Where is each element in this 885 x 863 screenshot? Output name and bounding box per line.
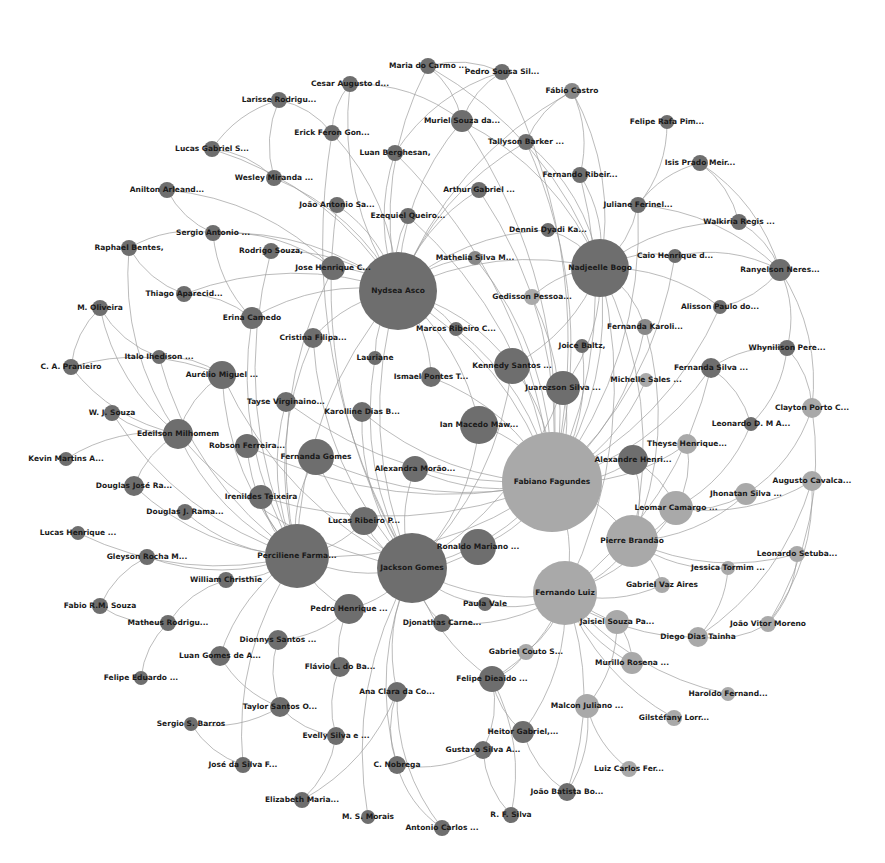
node-label: Felipe Eduardo ... (104, 673, 179, 682)
node-label: Antonio Carlos ... (405, 823, 478, 832)
node-label: Theyse Henrique... (647, 439, 727, 448)
node-label: Felipe Dieaido ... (456, 674, 527, 683)
edge (390, 692, 397, 765)
node-label: Taylor Santos O... (243, 702, 317, 711)
node-label: Ana Clara da Co... (359, 687, 435, 696)
node-label: Gabriel Couto S... (489, 647, 564, 656)
node-label: Fábio Castro (546, 86, 599, 95)
node-label: Heitor Gabriel,... (488, 727, 559, 736)
node-label: Kennedy Santos ... (472, 361, 552, 370)
node-label: Juarezson Silva ... (524, 383, 601, 392)
edge (638, 205, 780, 270)
node-label: Fernanda Gomes (280, 452, 352, 461)
edge (71, 308, 100, 367)
node-label: Evelly Silva e ... (302, 731, 369, 740)
node-label: Lauriane (357, 353, 394, 362)
node-label: Marcos Ribeiro C... (416, 324, 496, 333)
node-label: Gleyson Rocha M... (107, 552, 188, 561)
node-label: Felipe Rafa Pim... (630, 117, 704, 126)
node-label: Cesar Augusto d... (311, 79, 389, 88)
node-label: Augusto Cavalca... (773, 476, 852, 485)
node-label: Lucas Ribeiro P... (328, 516, 400, 525)
edge (100, 557, 147, 606)
node-label: Douglas J. Rama... (146, 507, 223, 516)
node-label: Raphael Bentes, (94, 243, 163, 252)
node-label: Malcon Juliano ... (551, 701, 624, 710)
node-label: Fernando Luiz (535, 588, 595, 597)
node-label: Michelle Sales ... (610, 375, 682, 384)
node-label: Leomar Camargo ... (634, 503, 717, 512)
node-label: Larisse Rodrigu... (242, 95, 317, 104)
node-label: José da Silva F... (208, 760, 278, 769)
node-label: Whynilison Pere... (748, 343, 825, 352)
node-label: Anilton Arleand... (130, 185, 205, 194)
edge (638, 122, 667, 205)
node-label: Diego Dias Tainha (660, 632, 735, 641)
node-label: Leonardo D. M A... (712, 419, 791, 428)
node-label: Caio Henrique d... (637, 251, 713, 260)
edge (567, 706, 588, 792)
node-label: C. A. Pranieiro (40, 362, 101, 371)
node-label: Mathelia Silva M... (436, 253, 515, 262)
node-label: João Antonio Sa... (298, 200, 374, 209)
edge (638, 163, 700, 205)
network-graph: Maria do Carmo ...Pedro Sousa Sil...Cesa… (0, 0, 885, 863)
node-label: R. F. Silva (490, 810, 531, 819)
node-label: Karolline Dias B... (324, 407, 400, 416)
node-label: Robson Ferreira... (209, 441, 285, 450)
edge (483, 750, 511, 815)
node-label: Douglas José Ra... (96, 481, 172, 490)
node-label: Elizabeth Maria... (265, 795, 339, 804)
edge (600, 268, 643, 541)
node-label: João Batista Bo... (530, 787, 604, 796)
node-label: Lucas Gabriel S... (175, 144, 249, 153)
edge (191, 724, 243, 765)
node-label: Dionnys Santos ... (240, 635, 317, 644)
node-label: Rodrigo Souza, (239, 246, 303, 255)
node-label: Leonardo Setuba... (757, 549, 838, 558)
node-label: Gustavo Silva A... (446, 745, 521, 754)
node-label: Joice Baltz, (558, 341, 606, 350)
node-label: Jackson Gomes (379, 563, 444, 572)
node-label: Perciliene Farma... (257, 551, 337, 560)
edge (523, 732, 567, 792)
edge (700, 163, 739, 222)
node-label: Erina Camedo (223, 313, 281, 322)
node-label: Ismael Pontes T... (394, 372, 469, 381)
node-label: Alexandre Henri... (595, 455, 672, 464)
node-label: Pedro Henrique ... (310, 604, 387, 613)
node-label: Fabiano Fagundes (514, 477, 591, 486)
edge (220, 656, 280, 707)
node-label: Edeilson Milhomem (137, 429, 219, 438)
node-label: Sergio Antonio ... (176, 228, 250, 237)
node-label: Arthur Gabriel ... (443, 185, 515, 194)
node-label: William Christhie (190, 575, 262, 584)
node-label: W. J. Souza (89, 408, 136, 417)
node-label: Flávio L. do Ba... (305, 662, 376, 671)
edge (711, 368, 751, 424)
node-label: Alisson Paulo do... (681, 302, 759, 311)
node-label: Paula Vale (463, 599, 507, 608)
edge (768, 408, 816, 624)
node-label: Nydsea Asco (371, 286, 425, 295)
edge (780, 270, 791, 348)
node-label: Walkiria Regis ... (703, 217, 775, 226)
node-label: Jose Henrique C... (294, 263, 371, 272)
node-label: Jessica Tormim ... (690, 563, 765, 572)
node-label: Irenildes Teixeira (225, 492, 298, 501)
node-label: Luan Berghesan, (359, 148, 430, 157)
node-label: Erick Feron Gon... (294, 128, 369, 137)
node-label: Ranyelson Neres... (740, 265, 820, 274)
node-label: Muriel Souza da... (424, 116, 500, 125)
node-label: Ian Macedo Maw... (440, 420, 519, 429)
node-label: Nadjeelle Bogo (568, 263, 632, 272)
edge (526, 91, 572, 142)
node-label: Gilstéfany Lorr... (639, 713, 710, 722)
edge (269, 100, 279, 178)
node-label: Thiago Aparecid... (145, 289, 222, 298)
node-label: Luan Gomes de A... (179, 651, 261, 660)
edge (100, 308, 159, 357)
node-label: Djonathas Carne... (403, 618, 482, 627)
node-label: Gabriel Vaz Aires (626, 580, 699, 589)
node-label: Dennis Dyadi Ka... (509, 225, 587, 234)
